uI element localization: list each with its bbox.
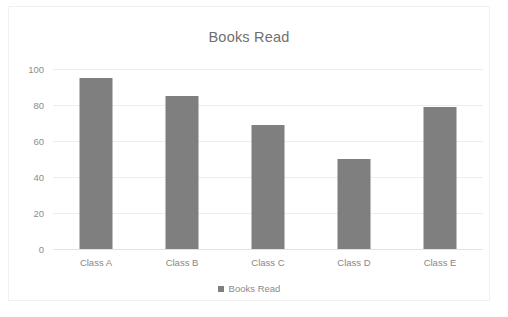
bar-group: Class E (397, 69, 483, 249)
chart-frame: Books Read 020406080100 Class AClass BCl… (8, 6, 490, 301)
bar-group: Class D (311, 69, 397, 249)
legend-label: Books Read (229, 283, 281, 294)
category-axis-line (53, 249, 483, 250)
chart-legend: Books Read (9, 283, 489, 294)
bar-group: Class A (53, 69, 139, 249)
chart-title: Books Read (9, 29, 489, 45)
plot-area: 020406080100 Class AClass BClass CClass … (53, 69, 483, 249)
y-tick-label: 40 (33, 172, 44, 183)
bar[interactable] (80, 78, 113, 249)
category-label: Class D (337, 257, 370, 268)
bar[interactable] (338, 159, 371, 249)
category-label: Class B (166, 257, 199, 268)
category-label: Class A (80, 257, 112, 268)
y-tick-label: 60 (33, 136, 44, 147)
y-tick-label: 0 (39, 244, 44, 255)
bar-series-books-read: Class AClass BClass CClass DClass E (53, 69, 483, 249)
bar[interactable] (424, 107, 457, 249)
category-label: Class C (251, 257, 284, 268)
category-label: Class E (424, 257, 457, 268)
y-tick-label: 100 (28, 64, 44, 75)
bar[interactable] (252, 125, 285, 249)
legend-swatch-icon (218, 286, 224, 292)
bar[interactable] (166, 96, 199, 249)
y-tick-label: 80 (33, 100, 44, 111)
bar-group: Class B (139, 69, 225, 249)
y-tick-label: 20 (33, 208, 44, 219)
bar-group: Class C (225, 69, 311, 249)
